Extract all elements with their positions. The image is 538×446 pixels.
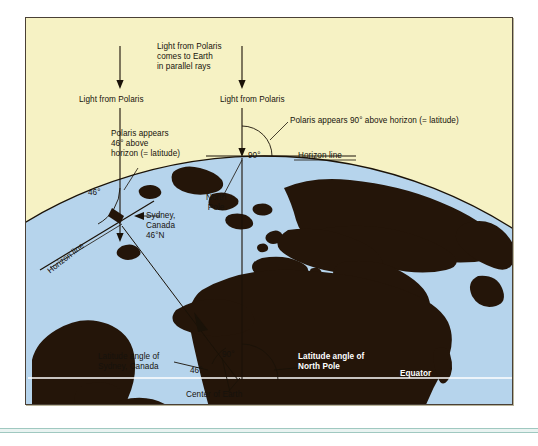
light-from-polaris-left-label: Light from Polaris — [79, 95, 144, 105]
leader-polaris-90 — [270, 122, 288, 140]
figure-root: Light from Polaris comes to Earth in par… — [0, 0, 538, 446]
angle-90-bottom-label: 90° — [222, 350, 235, 360]
equator-label: Equator — [400, 369, 431, 379]
ray-caption: Light from Polaris comes to Earth in par… — [157, 42, 222, 73]
light-from-polaris-right-label: Light from Polaris — [220, 95, 285, 105]
polaris-appears-46-label: Polaris appears 46° above horizon (= lat… — [111, 129, 180, 160]
polaris-appears-90-label: Polaris appears 90° above horizon (= lat… — [290, 116, 459, 126]
figure-frame: Light from Polaris comes to Earth in par… — [25, 17, 513, 405]
latitude-angle-sydney-label: Latitude angle of Sydney, Canada — [98, 352, 159, 372]
angle-90-top-label: 90° — [248, 151, 261, 161]
diagram-canvas — [26, 18, 513, 405]
bottom-divider — [0, 428, 538, 433]
angle-46-top-label: 46° — [88, 188, 101, 198]
horizon-line-right-label: Horizon line — [298, 151, 342, 161]
center-of-earth-label: Center of Earth — [186, 390, 242, 400]
sydney-label: Sydney, Canada 46°N — [146, 211, 175, 242]
diagram-stage: Light from Polaris comes to Earth in par… — [26, 18, 512, 404]
angle-46-bottom-label: 46° — [190, 366, 203, 376]
latitude-angle-north-pole-label: Latitude angle of North Pole — [298, 352, 364, 372]
north-pole-label: North Pole — [206, 193, 226, 213]
